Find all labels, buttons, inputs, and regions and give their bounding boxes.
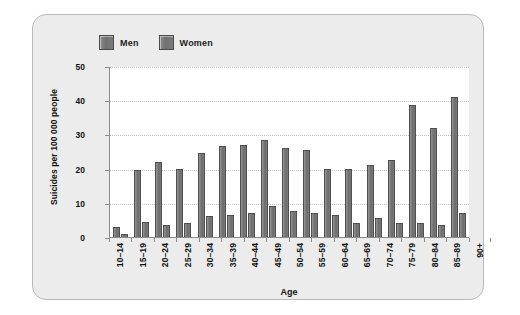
x-label-slot: 85–89	[446, 243, 468, 285]
chart-panel: Men Women Suicides per 100 000 people 01…	[32, 14, 484, 300]
bar-men	[324, 169, 331, 237]
x-label-slot: 60–64	[334, 243, 356, 285]
x-tick-mark	[401, 238, 402, 242]
bar-group	[279, 67, 300, 237]
bar-men	[388, 160, 395, 237]
x-tick-slot	[334, 238, 356, 242]
bar-women	[290, 211, 297, 237]
x-tick-label: 20–24	[160, 243, 170, 267]
bar-women	[417, 223, 424, 237]
bar-group	[406, 67, 427, 237]
x-tick-slot	[244, 238, 266, 242]
bar-group	[173, 67, 194, 237]
bar-men	[198, 153, 205, 237]
x-label-slot: 30–34	[199, 243, 221, 285]
bar-men	[113, 227, 120, 237]
bar-men	[176, 169, 183, 237]
bar-men	[430, 128, 437, 237]
x-tick-mark	[379, 238, 380, 242]
plot-area	[109, 67, 469, 238]
bar-group	[110, 67, 131, 237]
x-axis-title: Age	[87, 287, 491, 297]
y-tick-label: 40	[65, 96, 85, 106]
x-tick-slot	[176, 238, 198, 242]
x-label-slot: 10–14	[109, 243, 131, 285]
x-tick-mark	[199, 238, 200, 242]
x-tick-slot	[424, 238, 446, 242]
bar-men	[134, 170, 141, 237]
bar-women	[248, 213, 255, 237]
y-tick-label: 10	[65, 199, 85, 209]
chart-legend: Men Women	[99, 35, 213, 50]
x-tick-label: 15–19	[138, 243, 148, 267]
bar-men	[261, 140, 268, 237]
bar-group	[321, 67, 342, 237]
legend-swatch-men	[99, 35, 114, 50]
bar-group	[300, 67, 321, 237]
x-tick-mark	[154, 238, 155, 242]
x-tick-label: 60–64	[340, 243, 350, 267]
bar-group	[342, 67, 363, 237]
bar-women	[311, 213, 318, 237]
x-tick-mark	[469, 238, 470, 242]
x-tick-mark	[446, 238, 447, 242]
plot-area-wrapper: 01020304050	[87, 67, 469, 238]
x-tick-slot	[469, 238, 491, 242]
x-tick-mark	[176, 238, 177, 242]
bar-women	[459, 213, 466, 237]
x-tick-label: 70–74	[385, 243, 395, 267]
bar-women	[332, 215, 339, 237]
y-axis-title: Suicides per 100 000 people	[49, 67, 61, 227]
x-axis-ticks	[109, 238, 491, 242]
y-tick-mark	[105, 135, 109, 136]
x-tick-label: 40–44	[250, 243, 260, 267]
bar-women	[269, 206, 276, 237]
x-tick-mark	[334, 238, 335, 242]
y-tick-mark	[105, 101, 109, 102]
bar-men	[155, 162, 162, 237]
x-tick-slot	[289, 238, 311, 242]
bar-men	[282, 148, 289, 237]
x-tick-slot	[379, 238, 401, 242]
bar-women	[396, 223, 403, 237]
bar-men	[240, 145, 247, 237]
legend-label-women: Women	[180, 38, 213, 48]
x-tick-mark	[244, 238, 245, 242]
x-label-slot: 25–29	[176, 243, 198, 285]
bar-group	[364, 67, 385, 237]
x-axis-tick-labels: 10–1415–1920–2425–2930–3435–3940–4445–49…	[109, 243, 491, 285]
x-label-slot: 20–24	[154, 243, 176, 285]
bar-group	[427, 67, 448, 237]
x-tick-mark	[289, 238, 290, 242]
legend-entry-men: Men	[99, 35, 139, 50]
x-tick-slot	[266, 238, 288, 242]
x-tick-mark	[311, 238, 312, 242]
x-tick-slot	[154, 238, 176, 242]
y-tick-label: 0	[65, 233, 85, 243]
x-tick-slot	[401, 238, 423, 242]
bar-men	[345, 169, 352, 237]
x-label-slot: 70–74	[379, 243, 401, 285]
bar-women	[375, 218, 382, 237]
y-tick-label: 20	[65, 165, 85, 175]
x-tick-label: 90+	[475, 243, 485, 258]
x-tick-mark	[131, 238, 132, 242]
x-tick-label: 50–54	[295, 243, 305, 267]
bar-group	[385, 67, 406, 237]
x-label-slot: 35–39	[221, 243, 243, 285]
x-tick-label: 35–39	[228, 243, 238, 267]
bar-women	[206, 216, 213, 237]
x-tick-slot	[356, 238, 378, 242]
x-tick-mark	[221, 238, 222, 242]
x-label-slot: 15–19	[131, 243, 153, 285]
bar-men	[303, 150, 310, 237]
bar-women	[438, 225, 445, 237]
x-label-slot: 40–44	[244, 243, 266, 285]
bar-group	[448, 67, 469, 237]
x-tick-label: 80–84	[430, 243, 440, 267]
y-tick-mark	[105, 67, 109, 68]
x-tick-slot	[311, 238, 333, 242]
x-tick-label: 75–79	[407, 243, 417, 267]
x-tick-slot	[446, 238, 468, 242]
bar-women	[163, 225, 170, 237]
